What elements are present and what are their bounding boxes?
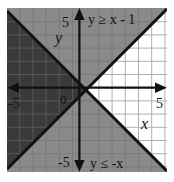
y-axis-tick-bottom: -5 [58,156,70,170]
y-axis-tick-top: 5 [62,16,69,30]
plot-area [7,8,167,172]
y-axis-label: y [55,30,62,46]
x-axis-tick-right: 5 [156,97,163,111]
inequality-graph-screenshot: 5 y -5 -5 5 x 0 y ≥ x - 1 y ≤ -x [0,0,174,182]
annotation-y-le-neg-x: y ≤ -x [90,157,123,171]
annotation-y-ge-x-minus-1: y ≥ x - 1 [88,13,135,27]
x-axis-tick-left: -5 [8,97,20,111]
coordinate-plane-svg [7,8,167,172]
origin-label: 0 [60,93,67,106]
x-axis-label: x [141,116,148,132]
